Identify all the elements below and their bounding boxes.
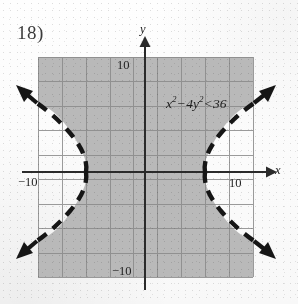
graph-figure: x2−4y2<36 10 −10 −10 10 y x [0, 0, 298, 304]
y-axis-tick-label-neg10: −10 [112, 264, 132, 279]
equation-minus-operator: − [177, 96, 187, 111]
equation-coefficient: 4 [186, 96, 193, 111]
x-axis-tick-label-10: 10 [229, 176, 242, 191]
equation-right-side: 36 [213, 96, 227, 111]
inequality-annotation: x2−4y2<36 [166, 94, 227, 112]
equation-relation-operator: < [203, 96, 213, 111]
arrow-down-right-icon [254, 241, 276, 259]
hyperbola-inequality-graph [0, 0, 298, 304]
y-axis-arrow-icon [140, 36, 151, 47]
arrow-up-left-icon [16, 85, 37, 103]
y-axis-name-label: y [140, 22, 146, 37]
arrow-up-right-icon [254, 85, 276, 103]
x-axis-tick-label-neg10: −10 [18, 175, 38, 190]
arrow-down-left-icon [16, 241, 37, 259]
x-axis-name-label: x [275, 163, 281, 178]
equation-x-exponent: 2 [172, 94, 177, 104]
y-axis-tick-label-10: 10 [117, 58, 130, 73]
